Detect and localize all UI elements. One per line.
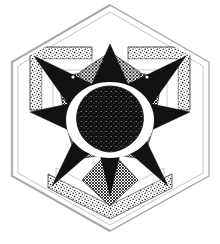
artwork-canvas: Hexagonal Star Mandala <box>0 0 220 244</box>
highlight-dot-right <box>145 75 148 78</box>
highlight-dot-left <box>71 75 74 78</box>
hexagon-mandala-figure <box>0 0 220 244</box>
speckled-core <box>77 86 144 152</box>
